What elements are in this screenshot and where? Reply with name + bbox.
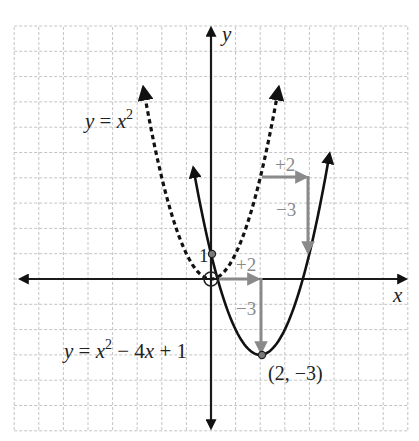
graph-figure: x y +2 −3 +2 −3 1 (2, −3) y = x2 y = x2 … xyxy=(0,0,419,441)
y-intercept-point xyxy=(208,250,215,257)
shift-down-label-lower: −3 xyxy=(236,298,256,319)
vertex-label: (2, −3) xyxy=(268,362,323,385)
shift-right-label-lower: +2 xyxy=(236,254,256,275)
translated-equation-label: y = x2 − 4x + 1 xyxy=(62,337,187,363)
x-axis-label: x xyxy=(392,283,403,307)
vertex-point xyxy=(258,351,265,358)
y-axis-label: y xyxy=(220,22,232,46)
y-intercept-label: 1 xyxy=(199,245,209,266)
shift-right-label-upper: +2 xyxy=(275,154,295,175)
parent-equation-label: y = x2 xyxy=(83,107,133,133)
shift-down-label-upper: −3 xyxy=(276,199,296,220)
